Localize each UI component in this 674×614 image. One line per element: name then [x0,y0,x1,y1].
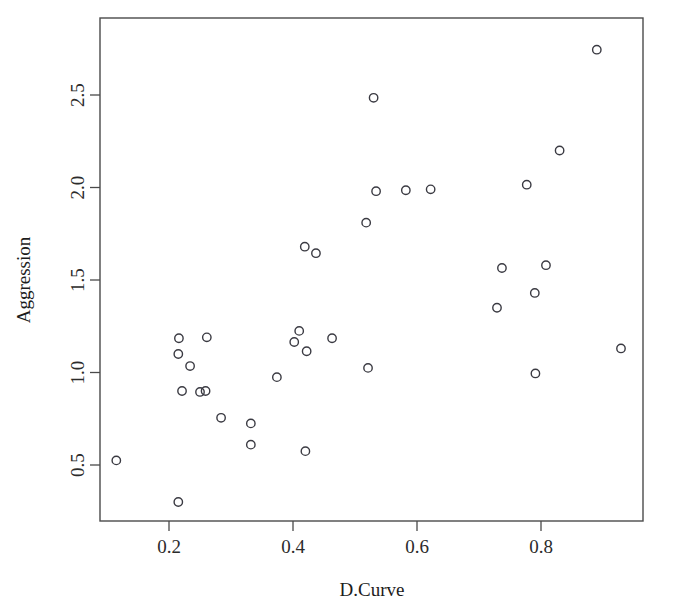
x-tick-label: 0.8 [529,536,553,557]
data-point [247,440,255,448]
data-point [178,387,186,395]
data-point [186,362,194,370]
data-point [402,186,410,194]
y-axis-ticks [90,95,100,465]
x-axis-ticks [169,521,541,531]
y-tick-label: 2.0 [67,176,88,200]
y-tick-label: 2.5 [67,83,88,107]
data-point [201,387,209,395]
data-point [426,185,434,193]
data-point [493,304,501,312]
data-point [328,334,336,342]
y-axis-title: Aggression [13,236,34,323]
y-tick-label: 0.5 [67,453,88,477]
data-point [290,338,298,346]
data-point [362,218,370,226]
y-tick-label: 1.0 [67,361,88,385]
x-axis-title: D.Curve [340,579,405,600]
data-point [531,369,539,377]
data-point [302,347,310,355]
y-tick-label: 1.5 [67,268,88,292]
data-point [593,45,601,53]
x-axis-tick-labels: 0.20.40.60.8 [157,536,553,557]
data-point [369,94,377,102]
data-point [372,187,380,195]
data-point [498,264,506,272]
data-point [542,261,550,269]
data-point [203,333,211,341]
scatter-plot-figure: 0.20.40.60.8 0.51.01.52.02.5 D.Curve Agg… [0,0,674,614]
data-point [112,456,120,464]
data-point [217,414,225,422]
data-point [295,327,303,335]
data-point [364,364,372,372]
x-tick-label: 0.6 [405,536,429,557]
x-tick-label: 0.2 [157,536,181,557]
data-point [273,373,281,381]
data-point [174,498,182,506]
data-point [174,350,182,358]
plot-canvas: 0.20.40.60.8 0.51.01.52.02.5 D.Curve Agg… [0,0,674,614]
data-point [301,243,309,251]
data-point [312,249,320,257]
data-point [523,181,531,189]
x-tick-label: 0.4 [281,536,305,557]
data-point [301,447,309,455]
data-point [531,289,539,297]
data-point [555,146,563,154]
data-point [247,419,255,427]
data-point [617,344,625,352]
data-point [175,334,183,342]
y-axis-tick-labels: 0.51.01.52.02.5 [67,83,88,477]
data-points-layer [112,45,625,506]
